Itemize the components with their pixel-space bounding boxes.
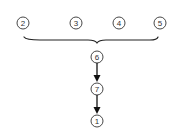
node-label: 7 xyxy=(95,85,100,94)
node-7: 7 xyxy=(91,83,103,95)
node-1: 1 xyxy=(91,115,103,127)
node-label: 2 xyxy=(21,19,26,28)
node-label: 4 xyxy=(117,19,122,28)
curly-brace xyxy=(24,37,158,43)
node-label: 6 xyxy=(95,53,100,62)
arrowhead-icon xyxy=(94,107,101,114)
node-label: 5 xyxy=(158,19,163,28)
arrow-7-to-1 xyxy=(94,95,101,114)
node-3: 3 xyxy=(70,17,82,29)
node-2: 2 xyxy=(17,17,29,29)
flow-diagram: 2 3 4 5 6 7 1 xyxy=(0,0,179,135)
node-5: 5 xyxy=(154,17,166,29)
node-label: 1 xyxy=(95,117,100,126)
node-6: 6 xyxy=(91,51,103,63)
node-label: 3 xyxy=(74,19,79,28)
node-4: 4 xyxy=(113,17,125,29)
arrow-6-to-7 xyxy=(94,63,101,82)
arrowhead-icon xyxy=(94,75,101,82)
